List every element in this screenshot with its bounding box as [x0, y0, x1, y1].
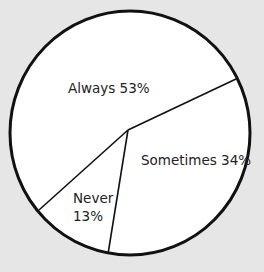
pie-chart: Always 53% Sometimes 34% Never 13% — [0, 0, 264, 272]
slice-label-never: Never — [73, 190, 114, 206]
slice-label-never-percent: 13% — [73, 208, 103, 224]
slice-label-always: Always 53% — [68, 80, 150, 96]
pie-outline — [10, 11, 250, 255]
pie-chart-svg: Always 53% Sometimes 34% Never 13% — [0, 0, 264, 272]
slice-label-sometimes: Sometimes 34% — [141, 152, 251, 168]
